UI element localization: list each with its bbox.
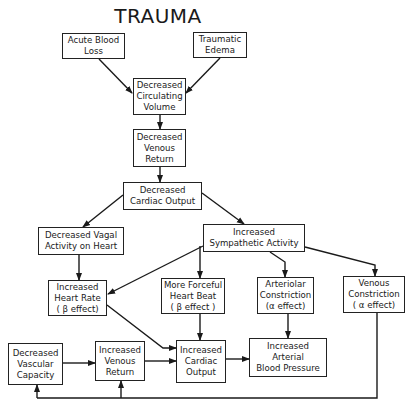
node-label: Return	[145, 154, 174, 165]
node-label: Constriction	[348, 289, 400, 300]
node-increased-arterial-blood-pressure: Increased Arterial Blood Pressure	[249, 338, 327, 377]
node-label: ( β effect )	[171, 302, 216, 313]
node-label: More Forceful	[164, 280, 222, 291]
node-label: Arteriolar	[265, 279, 305, 290]
node-label: Acute Blood	[68, 35, 120, 46]
node-label: Decreased	[140, 185, 186, 196]
node-arteriolar-constriction: Arteriolar Constriction (α effect)	[257, 277, 314, 314]
node-label: Decreased	[13, 348, 59, 359]
node-label: Decreased	[137, 80, 183, 91]
node-label: Decreased	[137, 132, 183, 143]
node-increased-cardiac-output: Increased Cardiac Output	[176, 340, 226, 383]
node-label: Capacity	[17, 370, 55, 381]
node-decreased-venous-return: Decreased Venous Return	[133, 129, 186, 167]
node-label: Return	[106, 367, 135, 378]
node-label: Activity on Heart	[45, 241, 117, 252]
node-label: ( β effect)	[56, 304, 98, 315]
node-label: Increased	[180, 345, 222, 356]
node-decreased-cardiac-output: Decreased Cardiac Output	[123, 182, 202, 210]
node-increased-heart-rate: Increased Heart Rate ( β effect)	[48, 280, 107, 316]
node-label: Increased	[57, 282, 99, 293]
node-label: Output	[186, 367, 216, 378]
node-label: Circulating	[136, 91, 182, 102]
node-label: Blood Pressure	[256, 363, 320, 374]
node-label: Cardiac Output	[130, 196, 195, 207]
node-label: Constriction	[260, 290, 312, 301]
node-label: Edema	[205, 45, 235, 56]
node-label: Venous	[104, 356, 135, 367]
node-venous-constriction: Venous Constriction ( α effect)	[343, 276, 405, 313]
node-acute-blood-loss: Acute Blood Loss	[62, 33, 125, 59]
node-label: Increased	[233, 227, 275, 238]
node-label: Venous	[358, 278, 389, 289]
node-label: Heart Rate	[54, 293, 100, 304]
node-label: Volume	[144, 102, 176, 113]
node-label: Venous	[144, 143, 175, 154]
node-label: Heart Beat	[170, 291, 216, 302]
node-label: (α effect)	[266, 301, 306, 312]
node-label: Arterial	[272, 352, 304, 363]
node-decreased-vagal-activity: Decreased Vagal Activity on Heart	[38, 227, 124, 255]
node-increased-sympathetic-activity: Increased Sympathetic Activity	[203, 224, 305, 252]
node-more-forceful-heart-beat: More Forceful Heart Beat ( β effect )	[161, 278, 225, 314]
node-decreased-circulating-volume: Decreased Circulating Volume	[133, 78, 186, 115]
node-increased-venous-return: Increased Venous Return	[95, 341, 145, 381]
node-traumatic-edema: Traumatic Edema	[193, 32, 247, 58]
node-decreased-vascular-capacity: Decreased Vascular Capacity	[8, 343, 63, 385]
node-label: Vascular	[17, 359, 53, 370]
node-label: Increased	[99, 345, 141, 356]
node-label: Sympathetic Activity	[209, 238, 298, 249]
node-label: Traumatic	[199, 34, 241, 45]
node-label: ( α effect)	[353, 300, 395, 311]
node-label: Loss	[84, 46, 103, 57]
node-label: Increased	[267, 341, 309, 352]
node-label: Decreased Vagal	[45, 230, 117, 241]
node-label: Cardiac	[185, 356, 217, 367]
